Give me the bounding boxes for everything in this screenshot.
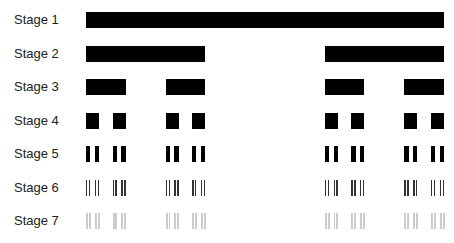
cantor-segment — [95, 180, 96, 196]
cantor-segment — [87, 213, 88, 229]
cantor-segment — [204, 180, 205, 196]
stage-row: Stage 3 — [0, 79, 454, 95]
stage-row: Stage 2 — [0, 46, 454, 62]
cantor-segment — [361, 213, 362, 229]
cantor-segment — [178, 213, 179, 229]
stage-row: Stage 7 — [0, 213, 454, 229]
cantor-segment — [413, 180, 414, 196]
cantor-segment — [360, 146, 364, 162]
cantor-segment — [121, 180, 122, 196]
cantor-segment — [86, 46, 205, 62]
cantor-segment — [192, 146, 196, 162]
cantor-segment — [408, 213, 409, 229]
stage-row: Stage 6 — [0, 180, 454, 196]
cantor-segment — [364, 213, 365, 229]
cantor-segment — [113, 146, 117, 162]
cantor-segment — [98, 180, 99, 196]
cantor-segment — [169, 213, 170, 229]
cantor-segment — [334, 180, 335, 196]
cantor-segment — [86, 113, 99, 129]
cantor-segment — [174, 180, 175, 196]
cantor-segment — [96, 213, 97, 229]
cantor-segment — [325, 180, 326, 196]
cantor-segment — [125, 213, 126, 229]
cantor-segment — [95, 146, 99, 162]
stage-label: Stage 6 — [14, 180, 59, 196]
cantor-segment — [414, 213, 415, 229]
cantor-segment — [431, 113, 444, 129]
cantor-segment — [175, 213, 176, 229]
cantor-segment — [325, 46, 444, 62]
cantor-segment — [334, 213, 335, 229]
cantor-segment — [193, 213, 194, 229]
cantor-segment — [354, 180, 355, 196]
cantor-segment — [444, 213, 445, 229]
cantor-segment — [192, 113, 205, 129]
cantor-segment — [169, 180, 170, 196]
cantor-segment — [205, 213, 206, 229]
cantor-segment — [404, 113, 417, 129]
stage-label: Stage 7 — [14, 213, 59, 229]
cantor-segment — [86, 79, 126, 95]
cantor-segment — [431, 146, 435, 162]
stage-row: Stage 1 — [0, 12, 454, 28]
cantor-segment — [404, 79, 444, 95]
cantor-segment — [167, 213, 168, 229]
cantor-segment — [113, 180, 114, 196]
cantor-segment — [440, 180, 441, 196]
cantor-segment — [89, 180, 90, 196]
stage-row: Stage 5 — [0, 146, 454, 162]
cantor-segment — [192, 180, 193, 196]
cantor-segment — [431, 180, 432, 196]
cantor-segment — [90, 213, 91, 229]
cantor-segment — [351, 146, 355, 162]
cantor-segment — [351, 113, 364, 129]
cantor-segment — [407, 180, 408, 196]
cantor-segment — [121, 146, 125, 162]
cantor-segment — [337, 213, 338, 229]
cantor-segment — [329, 213, 330, 229]
cantor-segment — [166, 146, 170, 162]
cantor-segment — [325, 113, 338, 129]
cantor-segment — [441, 213, 442, 229]
cantor-segment — [432, 213, 433, 229]
cantor-segment — [201, 146, 205, 162]
stage-label: Stage 2 — [14, 46, 59, 62]
cantor-segment — [116, 213, 117, 229]
cantor-segment — [336, 180, 337, 196]
cantor-segment — [352, 213, 353, 229]
cantor-segment — [360, 180, 361, 196]
cantor-segment — [113, 113, 126, 129]
cantor-segment — [86, 146, 90, 162]
cantor-segment — [404, 180, 405, 196]
stage-label: Stage 5 — [14, 146, 59, 162]
stage-label: Stage 3 — [14, 79, 59, 95]
cantor-segment — [86, 12, 444, 28]
stage-label: Stage 4 — [14, 113, 59, 129]
cantor-segment — [355, 213, 356, 229]
cantor-segment — [328, 180, 329, 196]
cantor-segment — [166, 180, 167, 196]
cantor-segment — [440, 146, 444, 162]
cantor-segment — [177, 180, 178, 196]
cantor-segment — [325, 146, 329, 162]
cantor-segment — [166, 113, 179, 129]
cantor-segment — [114, 213, 115, 229]
cantor-segment — [325, 79, 365, 95]
cantor-segment — [334, 146, 338, 162]
cantor-segment — [404, 146, 408, 162]
cantor-segment — [201, 180, 202, 196]
cantor-segment — [405, 213, 406, 229]
cantor-segment — [326, 213, 327, 229]
stage-row: Stage 4 — [0, 113, 454, 129]
cantor-segment — [195, 180, 196, 196]
cantor-segment — [434, 180, 435, 196]
cantor-segment — [174, 146, 178, 162]
cantor-segment — [413, 146, 417, 162]
cantor-segment — [202, 213, 203, 229]
cantor-segment — [86, 180, 87, 196]
cantor-segment — [416, 180, 417, 196]
cantor-segment — [166, 79, 206, 95]
cantor-segment — [122, 213, 123, 229]
cantor-segment — [443, 180, 444, 196]
